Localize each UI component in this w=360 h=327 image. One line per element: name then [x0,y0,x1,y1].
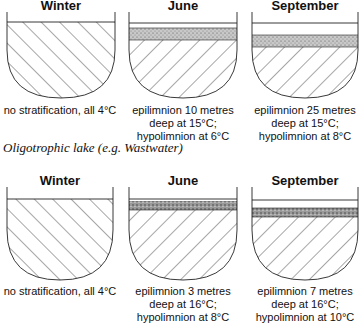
caption-june-1: epilimnion 10 metres deep at 15°C; hypol… [123,104,243,143]
caption-winter-1: no stratification, all 4°C [0,104,120,117]
panel-title-winter-2: Winter [5,173,115,188]
bowl-june-2 [125,187,245,284]
panel-title-june-2: June [128,173,238,188]
panel-title-september-1: September [250,0,360,13]
bowl-september-2 [248,187,360,284]
lake-type-label: Oligotrophic lake (e.g. Wastwater) [3,140,183,156]
panel-title-winter-1: Winter [6,0,116,13]
caption-september-2: epilimnion 7 metres deep at 16°C; hypoli… [245,285,360,324]
bowl-september-1 [248,12,360,102]
caption-june-2: epilimnion 3 metres deep at 16°C; hypoli… [123,285,243,324]
lake-stratification-diagram [0,0,360,327]
panel-title-june-1: June [128,0,238,13]
caption-september-1: epilimnion 25 metres deep at 15°C; hypol… [245,104,360,143]
bowl-winter-1 [0,12,120,102]
bowl-june-1 [125,12,245,102]
caption-winter-2: no stratification, all 4°C [0,285,120,298]
bowl-winter-2 [0,187,120,284]
panel-title-september-2: September [250,173,360,188]
